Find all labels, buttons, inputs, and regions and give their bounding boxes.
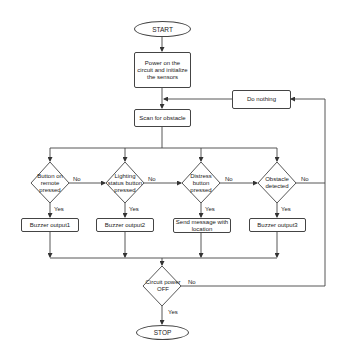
decision-obstacle-detected: Obstacle detected <box>261 168 293 198</box>
yes-label: Yes <box>281 206 291 213</box>
decision-circuit-power-off: Circuit power OFF <box>145 276 181 296</box>
no-label: No <box>148 176 156 183</box>
do-nothing-process: Do nothing <box>232 90 291 109</box>
no-label: No <box>73 176 81 183</box>
decision-lighting-button: Lighting status button pressed <box>106 168 144 198</box>
stop-terminal: STOP <box>136 325 189 340</box>
start-terminal: START <box>134 21 191 37</box>
no-label: No <box>188 279 196 286</box>
yes-label: Yes <box>168 309 178 316</box>
no-label: No <box>225 176 233 183</box>
no-label: No <box>301 176 309 183</box>
send-message-process: Send message with location <box>173 218 231 233</box>
init-process: Power on the circuit and initialize the … <box>134 52 191 88</box>
decision-distress-button: Distress button pressed <box>185 168 217 198</box>
scan-process: Scan for obstacle <box>134 109 191 127</box>
decision-remote-button: Button on remote pressed <box>34 168 66 198</box>
yes-label: Yes <box>54 206 64 213</box>
buzzer-output2-process: Buzzer output2 <box>96 218 154 232</box>
buzzer-output3-process: Buzzer output3 <box>249 218 306 232</box>
yes-label: Yes <box>205 206 215 213</box>
yes-label: Yes <box>129 206 139 213</box>
buzzer-output1-process: Buzzer output1 <box>21 218 79 232</box>
